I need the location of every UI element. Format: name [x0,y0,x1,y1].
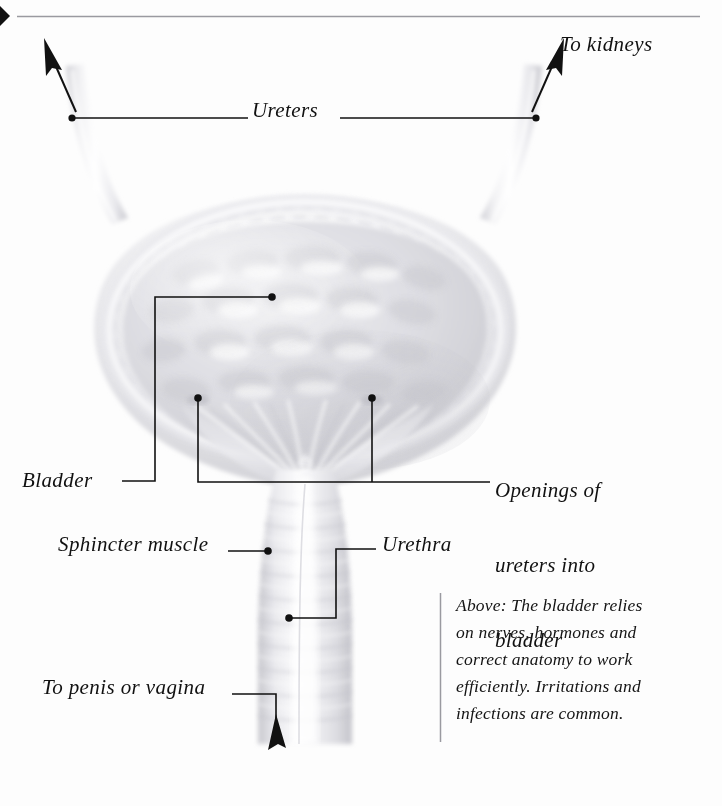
label-sphincter-muscle: Sphincter muscle [58,534,208,555]
left-ureter [66,64,128,224]
figure-caption: Above: The bladder relies on nerves, hor… [456,592,706,727]
leader-dot-sphincter [264,547,272,555]
leader-dot-bladder [268,293,276,301]
label-ureters: Ureters [252,100,318,121]
leader-dot-right-opening [368,394,376,402]
right-pointing-triangle-marker-icon [0,6,10,26]
label-urethra: Urethra [382,534,452,555]
label-openings-line-1: Openings of [495,478,600,503]
caption-line-1: Above: The bladder relies [456,592,706,619]
label-openings-line-2: ureters into [495,553,600,578]
top-divider-group [0,6,700,26]
urethra-group [258,470,352,744]
label-to-kidneys: To kidneys [560,34,652,55]
caption-line-2: on nerves, hormones and [456,619,706,646]
caption-line-4: efficiently. Irritations and [456,673,706,700]
label-to-penis-or-vagina: To penis or vagina [42,677,205,698]
leader-dot-left-ureter [68,114,75,121]
illustration-page: Ureters To kidneys Bladder Openings of u… [0,0,722,806]
leader-dot-left-opening [194,394,202,402]
bladder-body [94,196,516,492]
caption-line-5: infections are common. [456,700,706,727]
label-bladder: Bladder [22,470,92,491]
leader-dot-urethra [285,614,293,622]
right-ureter [480,64,542,224]
caption-line-3: correct anatomy to work [456,646,706,673]
leader-dot-right-ureter [532,114,539,121]
